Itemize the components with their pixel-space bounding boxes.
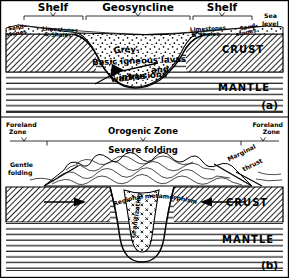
nappe-outline	[44, 153, 252, 187]
zone-brackets-a	[24, 13, 252, 21]
foreland-right-l1: Foreland	[252, 121, 283, 128]
panel-label-b: (b)	[261, 259, 278, 271]
zone-label-shelf-right: Shelf	[207, 1, 238, 13]
sea-level-label-line2: level	[262, 20, 279, 27]
crust-label-b: CRUST	[226, 197, 268, 208]
sea-level-label-line1: Sea	[264, 12, 277, 19]
marginal-thrust-l2: thrust	[241, 157, 263, 173]
gentle-folding-l1: Gentle	[10, 161, 33, 168]
severe-folding-label: Severe folding	[108, 145, 178, 155]
gentle-folding-l2: folding	[8, 169, 32, 177]
diagram-b: Foreland Zone Orogenic Zone Foreland Zon…	[6, 121, 283, 272]
foreland-fold-right-2	[256, 179, 282, 181]
foreland-left-l2: Zone	[9, 128, 26, 135]
figure-root: Shelf Geosyncline Shelf Sea level Sand- …	[0, 0, 289, 278]
foreland-right-l2: Zone	[263, 128, 280, 135]
diagram-a: Shelf Geosyncline Shelf Sea level Sand- …	[6, 1, 283, 113]
zone-label-geosyncline: Geosyncline	[102, 1, 174, 13]
geology-cross-section-svg: Shelf Geosyncline Shelf Sea level Sand- …	[0, 0, 289, 278]
mantle-label-a: MANTLE	[218, 82, 270, 93]
orogenic-zone-label: Orogenic Zone	[108, 126, 178, 136]
foreland-left-l1: Foreland	[6, 121, 37, 128]
panel-label-a: (a)	[261, 99, 278, 111]
crust-label-a: CRUST	[222, 44, 264, 55]
zone-label-shelf-left: Shelf	[38, 1, 69, 13]
mantle-label-b: MANTLE	[222, 234, 274, 245]
foreland-fold-right	[258, 172, 281, 175]
